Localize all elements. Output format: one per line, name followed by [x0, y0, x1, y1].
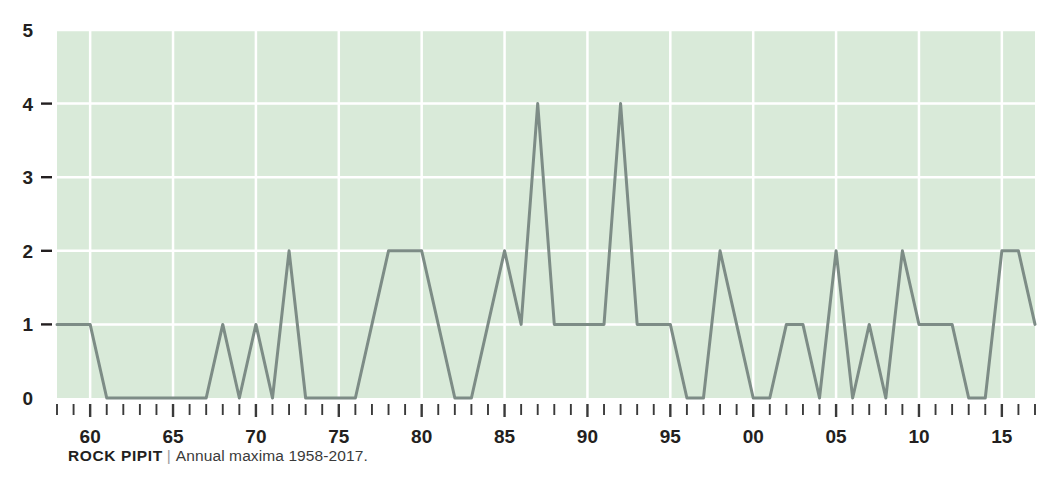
x-axis-tick-label: 60 [80, 426, 101, 445]
caption-separator: | [167, 447, 171, 464]
y-axis-tick-label: 3 [22, 167, 33, 188]
y-axis-tick-label: 4 [22, 94, 33, 115]
caption-subtitle: Annual maxima 1958-2017. [176, 447, 368, 464]
x-axis-tick-label: 70 [245, 426, 266, 445]
x-axis-tick-label: 90 [577, 426, 598, 445]
y-axis-tick-label: 0 [22, 388, 33, 409]
y-axis-tick-label: 2 [22, 241, 33, 262]
x-axis-tick-label: 95 [660, 426, 682, 445]
x-axis-tick-label: 65 [162, 426, 184, 445]
x-axis-tick-label: 75 [328, 426, 350, 445]
chart-figure: 012345606570758085909500051015 ROCK PIPI… [0, 0, 1063, 490]
x-axis-tick-label: 00 [743, 426, 764, 445]
y-axis-tick-label: 1 [22, 314, 33, 335]
x-axis-tick-label: 05 [826, 426, 848, 445]
y-axis-tick-label: 5 [22, 20, 33, 41]
x-axis-tick-label: 15 [991, 426, 1013, 445]
line-chart: 012345606570758085909500051015 [0, 0, 1063, 445]
x-axis-tick-label: 85 [494, 426, 516, 445]
caption-species: ROCK PIPIT [68, 447, 163, 464]
x-axis-tick-label: 80 [411, 426, 432, 445]
x-axis-tick-label: 10 [908, 426, 929, 445]
chart-caption: ROCK PIPIT|Annual maxima 1958-2017. [68, 447, 368, 465]
